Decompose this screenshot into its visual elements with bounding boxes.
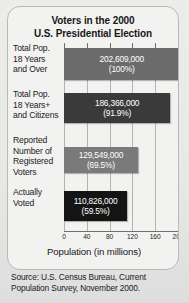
bar-track: 186,366,000(91.9%) xyxy=(64,89,179,135)
source-note: Source: U.S. Census Bureau, Current Popu… xyxy=(11,272,183,294)
x-tick-label-200: 200 xyxy=(172,233,179,240)
bar-value-label: 129,549,000 xyxy=(79,150,123,160)
bar-category-line: 18 Years xyxy=(13,54,64,65)
bar-rows: Total Pop.18 Yearsand Over202,609,000(10… xyxy=(8,43,179,229)
bar-category-label: Total Pop.18 Years+and Citizens xyxy=(8,89,64,121)
source-line1: Source: U.S. Census Bureau, Current xyxy=(11,272,183,283)
plot-area: Total Pop.18 Yearsand Over202,609,000(10… xyxy=(8,43,179,239)
bar-row: ActuallyVoted110,826,000(59.5%) xyxy=(8,187,179,229)
bar: 129,549,000(69.5%) xyxy=(64,147,138,173)
bar-category-label: Total Pop.18 Yearsand Over xyxy=(8,43,64,75)
bar: 110,826,000(59.5%) xyxy=(64,191,127,221)
bar-category-line: Number of xyxy=(13,146,64,157)
chart-title-line2: U.S. Presidential Election xyxy=(14,28,172,41)
bar-category-line: and Over xyxy=(13,64,64,75)
bar-track: 110,826,000(59.5%) xyxy=(64,187,179,229)
gridline-200 xyxy=(178,45,179,231)
bar-category-label: ActuallyVoted xyxy=(8,187,64,208)
bar-row: Total Pop.18 Years+and Citizens186,366,0… xyxy=(8,89,179,135)
bar-category-line: 18 Years+ xyxy=(13,100,64,111)
x-tick-label-160: 160 xyxy=(150,233,161,240)
bar: 202,609,000(100%) xyxy=(64,48,179,80)
bar-category-line: Voters xyxy=(13,167,64,178)
bar-track: 129,549,000(69.5%) xyxy=(64,135,179,187)
x-tick-label-80: 80 xyxy=(106,233,113,240)
source-line2: Population Survey, November 2000. xyxy=(11,283,183,294)
bar-row: Total Pop.18 Yearsand Over202,609,000(10… xyxy=(8,43,179,89)
x-axis-title: Population (in millions) xyxy=(8,246,179,257)
bar-category-line: Voted xyxy=(13,198,64,209)
bar-category-line: Registered xyxy=(13,156,64,167)
x-tick-label-0: 0 xyxy=(62,233,66,240)
tick-mark-200 xyxy=(178,43,179,48)
bar-percent-label: (100%) xyxy=(109,64,135,74)
bar-value-label: 110,826,000 xyxy=(74,196,118,206)
chart-panel: Voters in the 2000 U.S. Presidential Ele… xyxy=(7,6,179,270)
bar-value-label: 186,366,000 xyxy=(95,98,139,108)
x-axis-line xyxy=(64,231,178,232)
x-axis-tick-labels: 04080120160200 xyxy=(64,233,178,245)
bar-percent-label: (59.5%) xyxy=(82,206,110,216)
x-tick-label-120: 120 xyxy=(127,233,138,240)
chart-title-line1: Voters in the 2000 xyxy=(51,15,134,26)
bar-category-label: ReportedNumber ofRegisteredVoters xyxy=(8,135,64,177)
bar-row: ReportedNumber ofRegisteredVoters129,549… xyxy=(8,135,179,187)
bar: 186,366,000(91.9%) xyxy=(64,93,170,123)
bar-category-line: Actually xyxy=(13,187,64,198)
bar-category-line: Total Pop. xyxy=(13,89,64,100)
chart-title: Voters in the 2000 U.S. Presidential Ele… xyxy=(14,15,172,40)
bar-percent-label: (69.5%) xyxy=(87,160,115,170)
bar-category-line: Reported xyxy=(13,135,64,146)
x-tick-label-40: 40 xyxy=(83,233,90,240)
bar-track: 202,609,000(100%) xyxy=(64,43,179,89)
bar-value-label: 202,609,000 xyxy=(100,54,144,64)
bar-category-line: Total Pop. xyxy=(13,43,64,54)
bar-category-line: and Citizens xyxy=(13,110,64,121)
bar-percent-label: (91.9%) xyxy=(103,108,131,118)
